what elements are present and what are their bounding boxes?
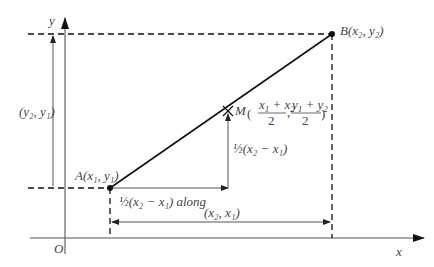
svg-text:M: M	[234, 103, 247, 118]
half-up-label: ½(x₂ − x₁)	[233, 141, 287, 156]
point-m-label: M ( x1 + x2 2 , y1 + y2 2 )	[234, 97, 328, 128]
svg-text:(: (	[247, 106, 251, 121]
point-b-label: B(x₂, y₂)	[340, 23, 384, 38]
origin-label: O	[54, 241, 64, 256]
half-along-label: ½(x₂ − x₁) along	[119, 194, 207, 209]
point-b	[329, 31, 335, 37]
svg-text:,: ,	[287, 104, 290, 119]
svg-text:2: 2	[302, 113, 309, 128]
point-a-label: A(x₁, y₁)	[74, 168, 119, 183]
y-axis-label: y	[47, 13, 55, 28]
x-axis-label: x	[395, 244, 402, 259]
svg-text:): )	[321, 106, 325, 121]
horizontal-extent-label: (x₂, x₁)	[204, 205, 240, 220]
midpoint-diagram: y x O A(x₁, y₁) B(x₂, y₂) M ( x1 + x2 2 …	[0, 0, 434, 267]
point-a	[107, 185, 113, 191]
vertical-extent-label: (y₂, y₁)	[19, 104, 55, 119]
svg-text:2: 2	[268, 113, 275, 128]
